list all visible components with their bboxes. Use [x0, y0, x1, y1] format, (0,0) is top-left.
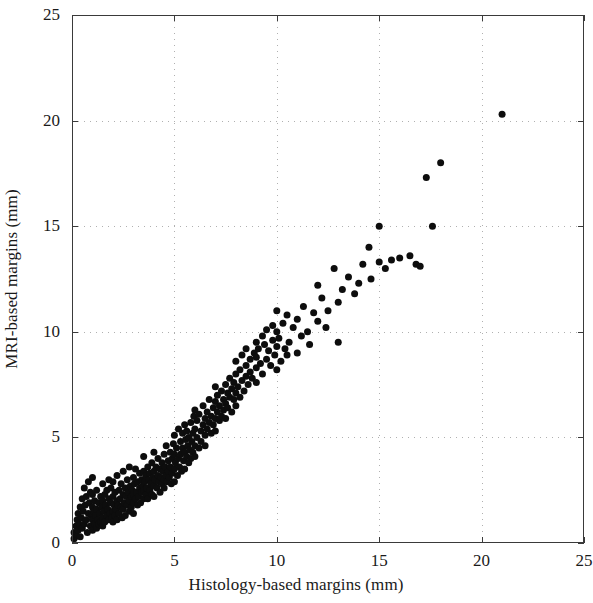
data-point	[89, 474, 96, 481]
data-point	[417, 263, 424, 270]
data-point	[365, 244, 372, 251]
data-point	[130, 510, 137, 517]
y-tick-label: 25	[0, 5, 60, 25]
data-point	[183, 428, 190, 435]
data-point	[331, 265, 338, 272]
data-point	[232, 402, 239, 409]
data-point	[376, 223, 383, 230]
data-point	[314, 282, 321, 289]
data-point	[345, 273, 352, 280]
x-tick-label: 5	[170, 551, 179, 571]
data-point	[284, 311, 291, 318]
data-point	[200, 402, 207, 409]
data-point	[314, 318, 321, 325]
y-tick-label: 10	[0, 322, 60, 342]
data-point	[222, 415, 229, 422]
y-axis-title: MRI-based margins (mm)	[2, 0, 28, 559]
data-point	[243, 345, 250, 352]
data-point	[306, 341, 313, 348]
data-point	[195, 411, 202, 418]
data-point	[294, 349, 301, 356]
data-point	[253, 379, 260, 386]
data-point	[277, 358, 284, 365]
data-point	[273, 307, 280, 314]
x-tick-label: 25	[576, 551, 593, 571]
data-point	[212, 428, 219, 435]
data-point	[171, 432, 178, 439]
data-point	[77, 533, 84, 540]
data-point	[124, 476, 131, 483]
data-point	[281, 345, 288, 352]
data-point	[335, 339, 342, 346]
data-point	[396, 254, 403, 261]
data-point	[195, 444, 202, 451]
data-point	[382, 265, 389, 272]
data-point	[93, 487, 100, 494]
data-point	[300, 303, 307, 310]
data-point-group	[71, 111, 506, 543]
data-point	[351, 290, 358, 297]
data-point	[263, 356, 270, 363]
x-tick-label: 0	[68, 551, 77, 571]
data-point	[232, 358, 239, 365]
data-point	[181, 421, 188, 428]
data-point	[245, 381, 252, 388]
data-point	[212, 383, 219, 390]
data-point	[140, 453, 147, 460]
data-point	[181, 466, 188, 473]
data-point	[269, 322, 276, 329]
data-point	[163, 442, 170, 449]
data-point	[150, 493, 157, 500]
data-point	[273, 343, 280, 350]
data-point	[218, 387, 225, 394]
data-point	[259, 371, 266, 378]
data-point	[325, 307, 332, 314]
data-point	[206, 396, 213, 403]
data-point	[261, 341, 268, 348]
data-point	[437, 159, 444, 166]
data-point	[368, 276, 375, 283]
data-point	[339, 286, 346, 293]
data-point	[234, 383, 241, 390]
y-tick-label: 15	[0, 216, 60, 236]
data-point	[173, 444, 180, 451]
data-point	[376, 259, 383, 266]
data-point	[247, 368, 254, 375]
data-point	[263, 326, 270, 333]
data-point	[279, 320, 286, 327]
x-tick-label: 20	[473, 551, 490, 571]
data-point	[290, 324, 297, 331]
data-point	[257, 360, 264, 367]
data-point	[265, 347, 272, 354]
data-point	[191, 453, 198, 460]
data-point	[359, 261, 366, 268]
y-tick-label: 20	[0, 111, 60, 131]
data-point	[120, 468, 127, 475]
data-point	[304, 328, 311, 335]
data-point	[429, 223, 436, 230]
data-point	[406, 252, 413, 259]
data-point	[222, 381, 229, 388]
data-point	[193, 417, 200, 424]
data-point	[388, 256, 395, 263]
data-point	[187, 419, 194, 426]
data-point	[259, 333, 266, 340]
data-point	[273, 366, 280, 373]
data-point	[81, 485, 88, 492]
data-point	[286, 339, 293, 346]
data-point	[271, 352, 278, 359]
data-point	[230, 396, 237, 403]
data-point	[255, 345, 262, 352]
data-point	[228, 409, 235, 416]
data-point	[423, 174, 430, 181]
data-point	[191, 425, 198, 432]
data-point	[275, 335, 282, 342]
data-point	[241, 387, 248, 394]
x-axis-title: Histology-based margins (mm)	[0, 575, 592, 595]
data-point	[126, 463, 133, 470]
data-point	[109, 478, 116, 485]
data-point	[253, 354, 260, 361]
data-point	[202, 442, 209, 449]
